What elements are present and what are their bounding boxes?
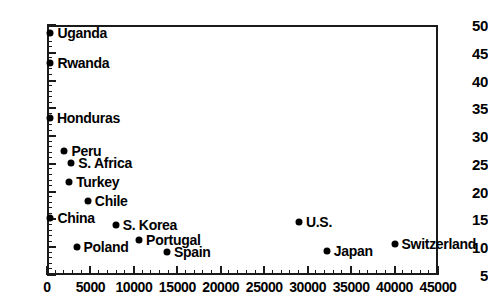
data-point-japan[interactable] [323,248,330,255]
x-tick-major [46,266,48,275]
y-tick-minor [47,202,52,203]
x-axis-label-15000: 15000 [159,280,196,294]
x-tick-minor [72,270,73,275]
y-tick-minor [47,96,52,97]
data-point-rwanda[interactable] [47,59,54,66]
data-point-s-korea[interactable] [112,222,119,229]
x-tick-major [220,266,222,275]
y-tick-minor [47,235,52,236]
x-axis-label-35000: 35000 [333,280,370,294]
y-tick-major [47,52,56,54]
data-point-label-japan: Japan [334,244,373,258]
data-point-poland[interactable] [73,244,80,251]
data-point-honduras[interactable] [47,114,54,121]
x-tick-minor [185,270,186,275]
x-tick-minor [298,270,299,275]
x-tick-minor [211,270,212,275]
x-tick-minor [81,270,82,275]
y-tick-minor [47,257,52,258]
y-tick-minor [47,263,52,264]
y-tick-minor [47,124,52,125]
y-tick-minor [47,174,52,175]
x-tick-major [437,266,439,275]
x-axis-label-0: 0 [43,280,50,294]
y-axis-label-20: 20 [444,185,488,200]
y-tick-minor [47,41,52,42]
x-tick-minor [228,270,229,275]
data-point-label-honduras: Honduras [57,111,120,125]
y-tick-minor [47,68,52,69]
y-axis-label-35: 35 [444,101,488,116]
x-tick-minor [98,270,99,275]
x-tick-minor [289,270,290,275]
y-tick-minor [47,213,52,214]
y-tick-minor [47,224,52,225]
y-tick-minor [47,102,52,103]
data-point-label-chile: Chile [95,194,128,208]
data-point-portugal[interactable] [136,237,143,244]
y-axis-label-30: 30 [444,129,488,144]
y-tick-minor [47,230,52,231]
y-axis-label-15: 15 [444,212,488,227]
x-tick-minor [411,270,412,275]
x-tick-minor [272,270,273,275]
x-tick-minor [124,270,125,275]
y-tick-major [47,246,56,248]
y-tick-minor [47,57,52,58]
x-axis-label-25000: 25000 [246,280,283,294]
y-axis-label-25: 25 [444,157,488,172]
y-tick-minor [47,196,52,197]
y-tick-major [47,135,56,137]
x-axis-label-10000: 10000 [115,280,152,294]
y-tick-minor [47,185,52,186]
x-tick-minor [168,270,169,275]
x-tick-minor [376,270,377,275]
y-tick-minor [47,74,52,75]
data-point-chile[interactable] [84,197,91,204]
data-point-peru[interactable] [61,148,68,155]
x-tick-minor [315,270,316,275]
x-tick-minor [142,270,143,275]
data-point-china[interactable] [47,215,54,222]
data-point-u-s[interactable] [295,219,302,226]
data-point-label-poland: Poland [84,240,129,254]
y-tick-major [47,80,56,82]
data-point-s-africa[interactable] [68,159,75,166]
data-point-turkey[interactable] [66,179,73,186]
y-axis-label-40: 40 [444,74,488,89]
x-tick-minor [420,270,421,275]
y-tick-minor [47,241,52,242]
y-tick-minor [47,157,52,158]
y-axis-label-45: 45 [444,46,488,61]
data-point-label-china: China [57,211,94,225]
x-tick-minor [359,270,360,275]
x-axis-label-40000: 40000 [376,280,413,294]
data-point-label-u-s: U.S. [306,215,332,229]
data-point-label-s-africa: S. Africa [78,156,132,170]
y-tick-minor [47,130,52,131]
x-axis-label-45000: 45000 [420,280,457,294]
x-axis-label-20000: 20000 [202,280,239,294]
x-tick-minor [341,270,342,275]
x-tick-minor [116,270,117,275]
x-tick-minor [194,270,195,275]
data-point-uganda[interactable] [47,30,54,37]
y-tick-major [47,191,56,193]
y-tick-major [47,163,56,165]
y-tick-minor [47,85,52,86]
data-point-label-uganda: Uganda [57,26,107,40]
x-tick-minor [385,270,386,275]
x-tick-minor [402,270,403,275]
x-tick-minor [281,270,282,275]
y-tick-minor [47,252,52,253]
x-tick-minor [367,270,368,275]
x-tick-major [394,266,396,275]
data-point-spain[interactable] [163,248,170,255]
x-tick-minor [159,270,160,275]
data-point-label-switzerland: Switzerland [402,237,477,251]
y-tick-minor [47,91,52,92]
y-tick-minor [47,168,52,169]
y-tick-minor [47,46,52,47]
y-tick-minor [47,207,52,208]
data-point-switzerland[interactable] [391,240,398,247]
